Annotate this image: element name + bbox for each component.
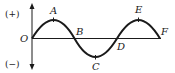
up-arrow-icon: [30, 3, 35, 9]
positive-label: (+): [5, 9, 20, 19]
point-label-f: F: [160, 26, 169, 37]
point-label-b: B: [75, 26, 83, 37]
point-label-d: D: [116, 41, 125, 52]
sine-wave-diagram: (+) (−) O A B C D E F: [0, 0, 175, 73]
point-label-c: C: [92, 61, 100, 72]
point-label-e: E: [134, 4, 143, 15]
point-label-o: O: [20, 33, 28, 44]
down-arrow-icon: [30, 64, 35, 70]
negative-label: (−): [5, 59, 20, 69]
point-label-a: A: [49, 5, 57, 16]
